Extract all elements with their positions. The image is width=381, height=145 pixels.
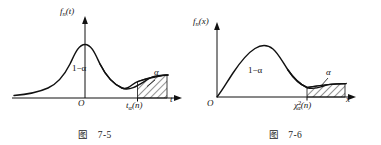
critical-value-label: tα(n) — [126, 101, 142, 111]
origin-label: O — [207, 99, 214, 108]
y-axis-label: fn(x) — [193, 17, 209, 27]
x-axis-label: x — [346, 95, 350, 104]
y-axis — [82, 16, 88, 98]
y-axis — [214, 22, 220, 97]
origin-label: O — [78, 99, 85, 108]
figure-caption: 图7-5 — [0, 127, 190, 141]
area-tail-label: α — [326, 68, 331, 77]
x-axis-label: t — [170, 95, 173, 104]
critical-value-label: χ2α(n) — [294, 100, 311, 111]
t-distribution-plot — [0, 0, 190, 145]
area-tail-label: α — [154, 68, 159, 77]
chi-square-distribution-plot — [190, 0, 381, 145]
y-axis-label: fn(t) — [60, 7, 74, 17]
figure-7-6: fn(x) x O 1−α α χ2α(n) 图7-6 — [190, 0, 381, 145]
area-main-label: 1−α — [248, 66, 262, 75]
area-main-label: 1−α — [72, 64, 86, 73]
figure-caption: 图7-6 — [190, 127, 381, 141]
figure-page: fn(t) t O 1−α α tα(n) 图7-5 — [0, 0, 381, 145]
figure-7-5: fn(t) t O 1−α α tα(n) 图7-5 — [0, 0, 190, 145]
